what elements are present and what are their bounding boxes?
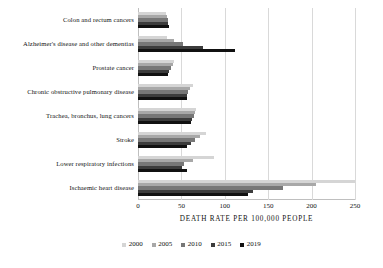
bar — [138, 145, 187, 148]
x-tick-label: 100 — [220, 201, 231, 211]
bar — [138, 97, 187, 100]
x-tick-label: 250 — [350, 201, 361, 211]
bar — [138, 169, 187, 172]
plot-area — [138, 8, 355, 200]
legend-item[interactable]: 2000 — [122, 240, 143, 249]
x-tick-label: 150 — [263, 201, 274, 211]
category-label: Ischaemic heart disease — [0, 184, 134, 192]
legend-item[interactable]: 2010 — [181, 240, 202, 249]
legend-label: 2000 — [129, 240, 143, 249]
bar — [138, 25, 169, 28]
legend-label: 2010 — [188, 240, 202, 249]
legend-swatch-icon — [240, 243, 244, 247]
legend-label: 2015 — [217, 240, 231, 249]
x-tick-label: 50 — [178, 201, 185, 211]
legend: 20002005201020152019 — [0, 240, 383, 249]
category-label: Colon and rectum cancers — [0, 16, 134, 24]
category-label: Stroke — [0, 136, 134, 144]
legend-swatch-icon — [211, 243, 215, 247]
bar-chart: Colon and rectum cancersAlzheimer's dise… — [0, 0, 383, 268]
gridline — [355, 8, 356, 200]
x-axis-tick-labels: 050100150200250 — [138, 201, 355, 213]
legend-label: 2005 — [158, 240, 172, 249]
legend-item[interactable]: 2019 — [240, 240, 261, 249]
bar — [138, 73, 168, 76]
legend-swatch-icon — [152, 243, 156, 247]
bar-group — [138, 128, 355, 152]
bar-group — [138, 8, 355, 32]
bar-group — [138, 176, 355, 200]
category-label: Prostate cancer — [0, 64, 134, 72]
category-label: Lower respiratory infections — [0, 160, 134, 168]
bar — [138, 193, 248, 196]
bar-group — [138, 32, 355, 56]
legend-item[interactable]: 2015 — [211, 240, 232, 249]
bar-group — [138, 104, 355, 128]
x-axis-title: DEATH RATE PER 100,000 PEOPLE — [138, 215, 355, 223]
legend-swatch-icon — [122, 243, 126, 247]
category-label: Alzheimer's disease and other dementias — [0, 40, 134, 48]
category-labels: Colon and rectum cancersAlzheimer's dise… — [0, 8, 134, 200]
bar-group — [138, 152, 355, 176]
legend-label: 2019 — [247, 240, 261, 249]
x-tick-label: 0 — [136, 201, 140, 211]
category-label: Chronic obstructive pulmonary disease — [0, 88, 134, 96]
bar-group — [138, 56, 355, 80]
category-label: Trachea, bronchus, lung cancers — [0, 112, 134, 120]
bar — [138, 121, 191, 124]
x-tick-label: 200 — [306, 201, 317, 211]
bar-group — [138, 80, 355, 104]
bar — [138, 49, 235, 52]
legend-swatch-icon — [181, 243, 185, 247]
legend-item[interactable]: 2005 — [152, 240, 173, 249]
